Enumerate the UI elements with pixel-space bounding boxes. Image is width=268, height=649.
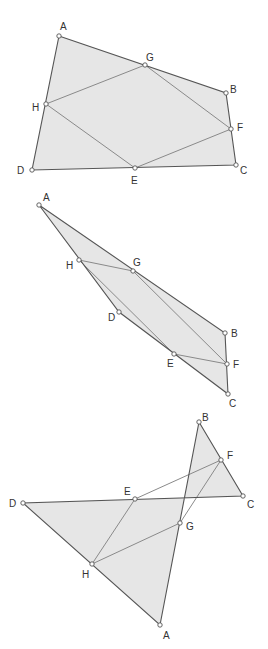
point-c	[241, 494, 245, 498]
point-b	[223, 331, 227, 335]
label-h: H	[32, 102, 39, 113]
point-a	[57, 34, 61, 38]
label-c: C	[229, 398, 236, 409]
point-e	[133, 166, 137, 170]
point-h	[44, 102, 48, 106]
quadrilateral-fill	[32, 36, 236, 170]
point-a	[37, 203, 41, 207]
label-f: F	[233, 359, 239, 370]
point-f	[229, 127, 233, 131]
label-a: A	[60, 21, 67, 32]
point-e	[172, 352, 176, 356]
label-c: C	[247, 499, 254, 510]
point-d	[21, 501, 25, 505]
point-b	[197, 420, 201, 424]
label-f: F	[227, 450, 233, 461]
label-f: F	[237, 122, 243, 133]
label-b: B	[230, 84, 237, 95]
label-d: D	[108, 312, 115, 323]
quadrilateral-fill	[23, 422, 243, 625]
label-g: G	[133, 257, 141, 268]
label-h: H	[82, 569, 89, 580]
label-c: C	[240, 165, 247, 176]
point-f	[225, 362, 229, 366]
figure-convex: A B C D E F G H	[17, 21, 247, 186]
label-e: E	[124, 486, 131, 497]
label-h: H	[66, 260, 73, 271]
point-d	[117, 310, 121, 314]
label-a: A	[43, 192, 50, 203]
point-a	[158, 623, 162, 627]
figure-concave: A B C D E F G H	[37, 192, 239, 409]
point-g	[131, 269, 135, 273]
label-e: E	[167, 358, 174, 369]
point-h	[90, 562, 94, 566]
label-g: G	[146, 52, 154, 63]
label-e: E	[131, 175, 138, 186]
label-g: G	[186, 521, 194, 532]
point-c	[234, 163, 238, 167]
point-d	[30, 168, 34, 172]
point-h	[77, 258, 81, 262]
point-c	[226, 392, 230, 396]
point-b	[224, 91, 228, 95]
label-d: D	[9, 498, 16, 509]
label-b: B	[231, 328, 238, 339]
figure-crossed: A B C D E F G H	[9, 412, 254, 641]
point-g	[178, 521, 182, 525]
point-e	[133, 497, 137, 501]
quadrilateral-fill	[39, 205, 228, 394]
label-d: D	[17, 165, 24, 176]
label-a: A	[163, 630, 170, 641]
point-f	[219, 458, 223, 462]
diagram-canvas: A B C D E F G H A B C D E	[0, 0, 268, 649]
point-g	[143, 63, 147, 67]
label-b: B	[202, 412, 209, 423]
